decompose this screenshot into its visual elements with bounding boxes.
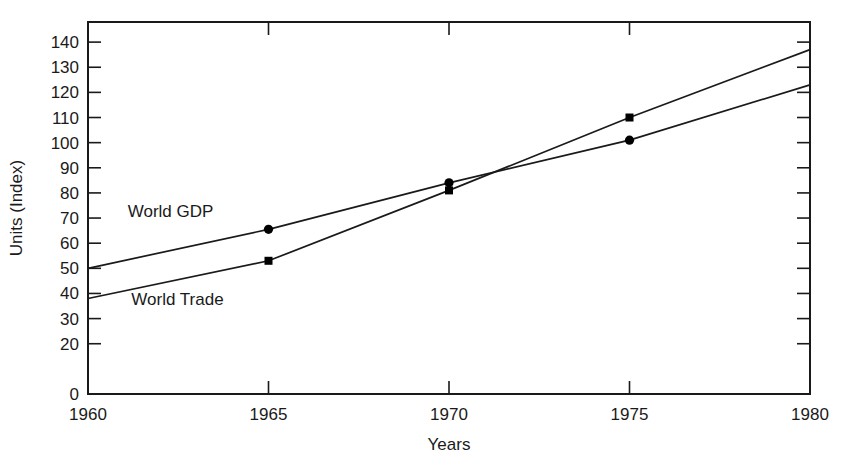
y-tick-label-60: 60 [60, 234, 79, 253]
marker-circle-1970 [444, 178, 453, 187]
data-series-layer [88, 50, 810, 299]
y-axis-tick-labels: 02030405060708090100110120130140 [51, 33, 79, 404]
series-line-world-gdp [88, 85, 810, 268]
y-tick-label-110: 110 [52, 109, 79, 128]
y-axis-title: Units (Index) [7, 160, 26, 256]
marker-circle-1965 [264, 225, 273, 234]
x-axis-ticks-bottom [269, 381, 630, 394]
annotation-world-trade: World Trade [131, 290, 223, 309]
y-tick-label-80: 80 [60, 184, 79, 203]
y-tick-label-120: 120 [51, 83, 79, 102]
x-tick-label-1975: 1975 [611, 405, 649, 424]
y-tick-label-0: 0 [70, 385, 79, 404]
x-tick-label-1980: 1980 [791, 405, 829, 424]
x-tick-label-1970: 1970 [430, 405, 468, 424]
x-tick-label-1965: 1965 [250, 405, 288, 424]
marker-circle-1975 [625, 136, 634, 145]
y-tick-label-100: 100 [51, 134, 79, 153]
y-tick-label-30: 30 [60, 310, 79, 329]
x-axis-tick-labels: 19601965197019751980 [69, 405, 829, 424]
y-tick-label-40: 40 [60, 284, 79, 303]
marker-square-1975 [626, 114, 634, 122]
line-chart: 02030405060708090100110120130140 1960196… [0, 0, 864, 458]
marker-square-1965 [265, 257, 273, 265]
x-tick-label-1960: 1960 [69, 405, 107, 424]
annotation-world-gdp: World GDP [128, 202, 214, 221]
x-axis-ticks-top [269, 22, 630, 35]
y-tick-label-130: 130 [51, 58, 79, 77]
y-tick-label-70: 70 [60, 209, 79, 228]
x-axis-title: Years [428, 435, 471, 454]
y-tick-label-20: 20 [60, 335, 79, 354]
y-tick-label-90: 90 [60, 159, 79, 178]
series-line-world-trade [88, 50, 810, 299]
marker-square-1970 [445, 186, 453, 194]
chart-figure: 02030405060708090100110120130140 1960196… [0, 0, 864, 458]
y-tick-label-50: 50 [60, 259, 79, 278]
y-tick-label-140: 140 [51, 33, 79, 52]
series-annotations: World GDPWorld Trade [128, 202, 224, 309]
